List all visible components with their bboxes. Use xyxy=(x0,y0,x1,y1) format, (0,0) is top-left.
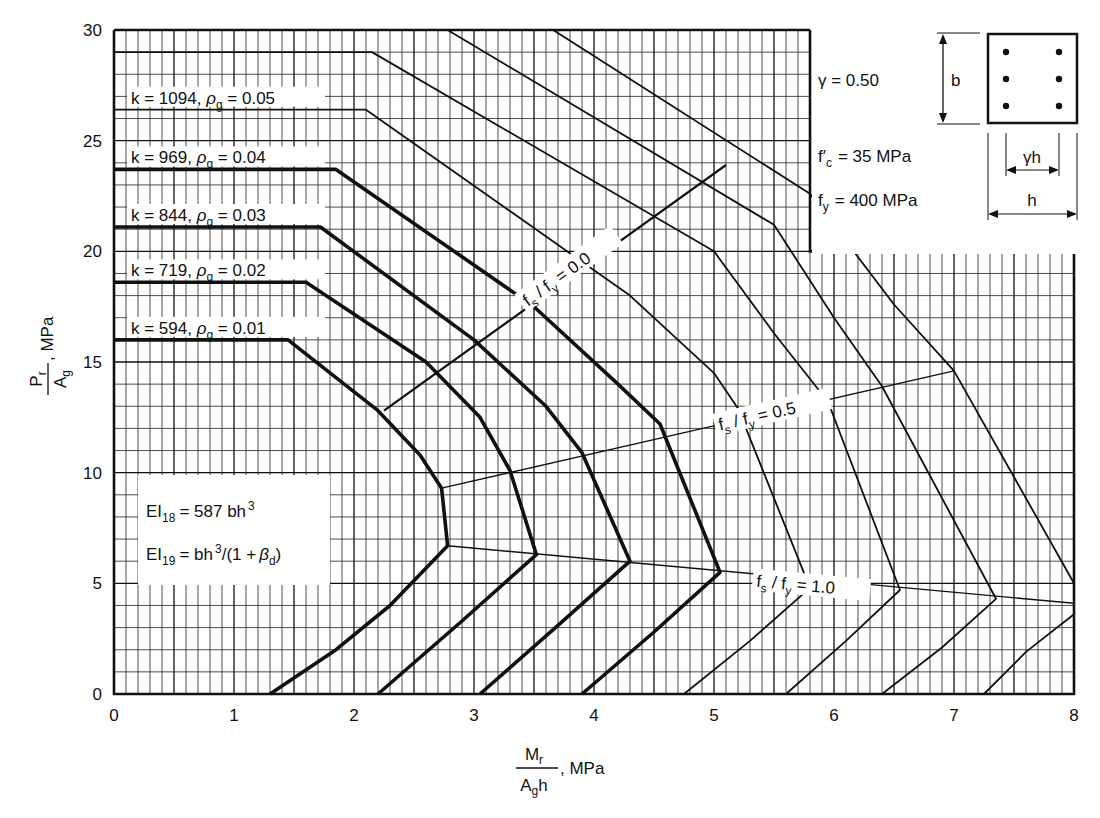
y-label-num-sub: r xyxy=(35,371,49,375)
curve-label-k: k = 969, xyxy=(131,148,197,167)
curve-label-rho-symbol: ρ xyxy=(196,206,207,225)
ei19-rhs: = bh xyxy=(179,545,213,564)
rebar-dot xyxy=(1056,76,1062,82)
y-tick-label: 25 xyxy=(83,132,102,151)
parameter-panel: γ = 0.50 f′c= 35 MPa fy= 400 MPa b γh xyxy=(812,20,1100,254)
interaction-diagram: fs / fy = 0.0fs / fy = 0.5fs / fy = 1.0 … xyxy=(0,0,1100,818)
curve-label-rho-value: = 0.04 xyxy=(213,148,265,167)
x-tick-label: 8 xyxy=(1069,706,1078,725)
interaction-curve-rho-0.04 xyxy=(114,169,720,694)
strain-label-1.0: fs / fy = 1.0 xyxy=(751,568,871,605)
curve-label-rho-value: = 0.03 xyxy=(213,206,265,225)
curve-label-rho-value: = 0.02 xyxy=(213,261,265,280)
x-label-den-sub: g xyxy=(532,784,539,798)
y-label-num: P xyxy=(27,375,46,386)
strain-label-part: = 1.0 xyxy=(791,575,836,598)
ei18-sup: 3 xyxy=(248,499,255,513)
curve-label-rho-symbol: ρ xyxy=(196,261,207,280)
y-axis-label: Pr Ag , MPa xyxy=(27,316,73,395)
svg-text:Agh: Agh xyxy=(520,776,548,798)
fc-rhs: = 35 MPa xyxy=(838,147,912,166)
y-tick-label: 30 xyxy=(83,21,102,40)
curve-label-rho-symbol: ρ xyxy=(196,319,207,338)
x-tick-label: 7 xyxy=(949,706,958,725)
ei19-beta: β xyxy=(258,545,269,564)
x-label-num-sub: r xyxy=(539,753,543,767)
x-tick-labels: 012345678 xyxy=(109,706,1078,725)
ei-annotation-box: EI18= 587 bh3 EI19= bh3/(1 +βd) xyxy=(138,475,330,585)
y-tick-label: 5 xyxy=(93,574,102,593)
x-tick-label: 4 xyxy=(589,706,598,725)
x-label-den: A xyxy=(520,776,532,795)
ei19-beta-sub: d xyxy=(269,554,276,568)
y-tick-label: 10 xyxy=(83,464,102,483)
fc-sub: c xyxy=(826,156,832,170)
curve-label-k: k = 844, xyxy=(131,206,197,225)
ei18-prefix: EI xyxy=(146,502,162,521)
curve-label-k: k = 719, xyxy=(131,261,197,280)
x-axis-label: Mr Agh , MPa xyxy=(516,745,605,798)
ei19-sub: 19 xyxy=(162,554,176,568)
rebar-dot xyxy=(1003,49,1009,55)
x-tick-label: 6 xyxy=(829,706,838,725)
y-tick-label: 15 xyxy=(83,353,102,372)
gamma-value: γ = 0.50 xyxy=(818,71,879,90)
curve-label-rho-value: = 0.01 xyxy=(213,319,265,338)
x-tick-label: 3 xyxy=(469,706,478,725)
ei19-tail: /(1 + xyxy=(222,545,257,564)
fc-main: f′ xyxy=(818,147,826,166)
y-tick-label: 0 xyxy=(93,685,102,704)
svg-text:Mr: Mr xyxy=(525,745,543,767)
rebar-dot xyxy=(1003,103,1009,109)
x-tick-label: 5 xyxy=(709,706,718,725)
x-tick-label: 1 xyxy=(229,706,238,725)
strain-label-part: / f xyxy=(766,573,787,594)
ei18-sub: 18 xyxy=(162,511,176,525)
curve-label-rho-sub: g xyxy=(206,215,213,229)
curve-label-rho-sub: g xyxy=(206,270,213,284)
curve-label-k: k = 1094, xyxy=(131,89,206,108)
curve-label-rho-sub: g xyxy=(206,328,213,342)
y-tick-label: 20 xyxy=(83,242,102,261)
fy-rhs: = 400 MPa xyxy=(835,191,918,210)
ei-box-bg xyxy=(138,475,330,585)
ei19-close: ) xyxy=(276,545,282,564)
rebar-dot xyxy=(1056,49,1062,55)
strain-line-0.5 xyxy=(442,371,954,488)
ei19-prefix: EI xyxy=(146,545,162,564)
svg-text:Pr: Pr xyxy=(27,371,49,386)
rebar-dot xyxy=(1056,103,1062,109)
curve-label-k: k = 594, xyxy=(131,319,197,338)
y-tick-labels: 051015202530 xyxy=(83,21,102,704)
strain-label-0.5: fs / fy = 0.5 xyxy=(712,388,833,440)
x-tick-label: 2 xyxy=(349,706,358,725)
curve-label-rho-symbol: ρ xyxy=(196,148,207,167)
curve-label-rho-0.05: k = 1094, ρg = 0.05 xyxy=(127,87,325,112)
curve-label-rho-sub: g xyxy=(216,98,223,112)
y-label-unit: , MPa xyxy=(38,316,57,361)
b-label: b xyxy=(951,71,960,90)
curve-label-text: k = 1094, ρg = 0.05 xyxy=(131,89,275,112)
rebar-dot xyxy=(1003,76,1009,82)
curve-label-rho-sub: g xyxy=(206,157,213,171)
ei18-rhs: = 587 bh xyxy=(179,502,246,521)
curve-labels: k = 1094, ρg = 0.05k = 969, ρg = 0.04k =… xyxy=(127,87,325,342)
interaction-curve-rho-0.03 xyxy=(114,227,630,694)
interaction-curve-rho-0.08 xyxy=(984,614,1074,694)
h-label: h xyxy=(1027,191,1036,210)
parameter-panel-bg xyxy=(812,20,1100,254)
x-label-den-tail: h xyxy=(538,776,547,795)
x-tick-label: 0 xyxy=(109,706,118,725)
y-label-den-sub: g xyxy=(59,370,73,377)
curve-label-rho-symbol: ρ xyxy=(205,89,216,108)
x-label-unit: , MPa xyxy=(560,759,605,778)
x-label-num: M xyxy=(525,745,539,764)
fy-sub: y xyxy=(823,200,829,214)
gh-label: γh xyxy=(1023,148,1041,167)
y-label-den: A xyxy=(51,376,70,388)
curve-label-rho-value: = 0.05 xyxy=(223,89,275,108)
svg-text:Ag: Ag xyxy=(51,370,73,388)
